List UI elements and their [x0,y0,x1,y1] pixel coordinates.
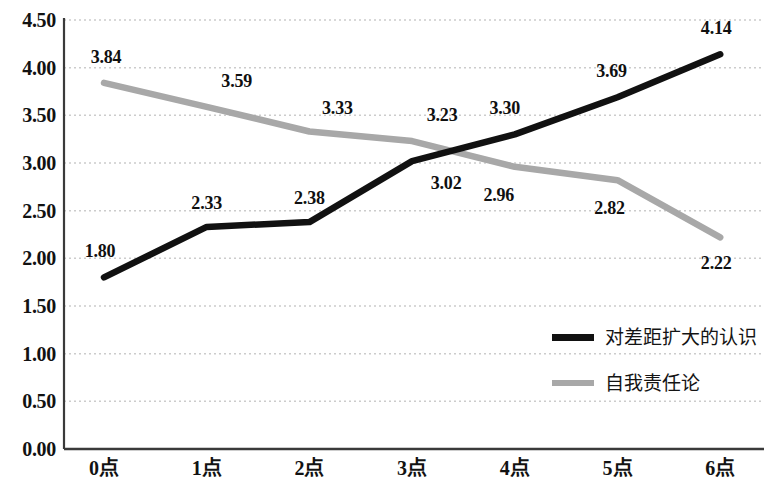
x-axis-tick-label-3: 3点 [397,458,427,478]
data-label-black-1: 2.33 [191,194,222,212]
legend-swatch-icon-black [552,334,594,341]
legend-item-gap-awareness[interactable]: 对差距扩大的认识 [552,322,762,352]
x-axis-tick-label-2: 2点 [294,458,324,478]
data-label-black-5: 3.69 [596,62,627,80]
legend: 对差距扩大的认识 自我责任论 [552,322,762,414]
y-axis-tick-label: 4.00 [0,58,56,78]
data-label-gray-2: 3.33 [322,99,353,117]
x-axis-tick-label-5: 5点 [603,458,633,478]
y-axis-tick-label: 4.50 [0,10,56,30]
y-axis-tick-label: 2.00 [0,248,56,268]
line-chart: 4.504.003.503.002.502.001.501.000.500.00… [0,0,764,482]
y-axis-tick-label: 1.50 [0,296,56,316]
x-axis-tick-label-0: 0点 [89,458,119,478]
x-axis-tick-label-1: 1点 [192,458,222,478]
legend-swatch-icon-gray [552,380,594,386]
legend-item-self-responsibility[interactable]: 自我责任论 [552,368,762,398]
data-label-gray-0: 3.84 [91,48,122,66]
data-label-gray-5: 2.82 [594,199,625,217]
data-label-black-4: 3.30 [489,99,520,117]
x-axis-tick-label-6: 6点 [705,458,735,478]
data-label-black-6: 4.14 [701,19,732,37]
y-axis-tick-label: 0.50 [0,391,56,411]
legend-label-self-responsibility: 自我责任论 [605,374,700,393]
legend-label-gap-awareness: 对差距扩大的认识 [605,328,757,347]
y-axis-tick-label: 3.00 [0,153,56,173]
data-label-gray-6: 2.22 [701,254,732,272]
data-label-gray-4: 2.96 [483,186,514,204]
data-label-gray-1: 3.59 [221,72,252,90]
y-axis-tick-label: 3.50 [0,105,56,125]
data-label-black-3: 3.02 [431,174,462,192]
y-axis-tick-label: 1.00 [0,344,56,364]
data-label-black-2: 2.38 [294,189,325,207]
x-axis-tick-label-4: 4点 [500,458,530,478]
y-axis-tick-label: 2.50 [0,201,56,221]
y-axis-tick-label: 0.00 [0,439,56,459]
data-label-black-0: 1.80 [85,242,116,260]
series-line-gap-awareness [104,54,720,277]
data-label-gray-3: 3.23 [427,106,458,124]
